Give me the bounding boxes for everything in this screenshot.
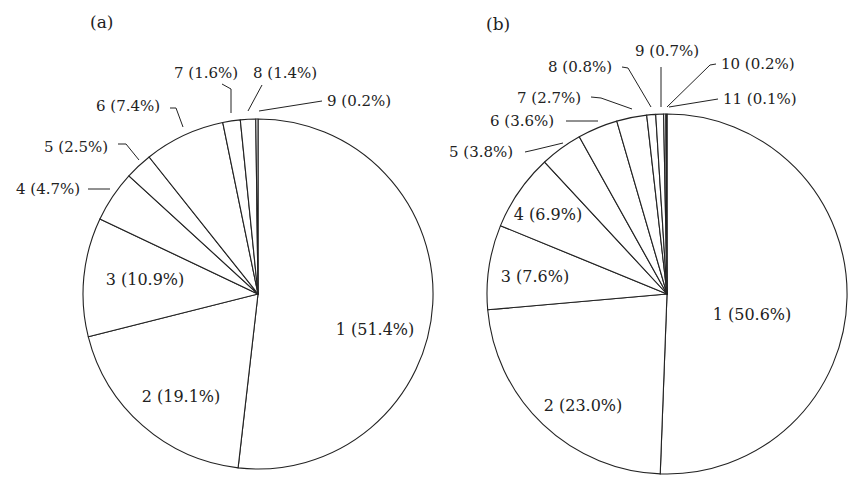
leader-line-a-9 <box>259 101 322 111</box>
slice-label-a-1: 1 (51.4%) <box>336 320 415 339</box>
pie-chart-a: (a) 1 (51.4%) 2 (19.1%) 3 (10.9%) 4 (4.7… <box>16 12 433 469</box>
slice-label-b-11: 11 (0.1%) <box>723 90 797 108</box>
slice-label-a-5: 5 (2.5%) <box>44 138 108 156</box>
slice-label-b-4: 4 (6.9%) <box>514 205 582 224</box>
slice-label-a-6: 6 (7.4%) <box>96 97 160 115</box>
slice-label-b-1: 1 (50.6%) <box>713 305 792 324</box>
leader-line-b-7 <box>591 97 632 109</box>
slice-label-a-7: 7 (1.6%) <box>174 64 238 82</box>
slice-label-b-8: 8 (0.8%) <box>548 58 612 76</box>
slice-label-a-9: 9 (0.2%) <box>327 92 391 110</box>
slice-label-a-2: 2 (19.1%) <box>142 387 221 406</box>
leader-line-a-7 <box>222 84 231 113</box>
pie-slice-b-2 <box>488 294 667 474</box>
leader-line-a-6 <box>170 108 183 127</box>
leader-line-a-5 <box>118 144 139 160</box>
pie-slice-a-1 <box>238 119 433 469</box>
slice-label-b-7: 7 (2.7%) <box>517 89 581 107</box>
panel-label-a: (a) <box>90 12 113 32</box>
slice-label-b-9: 9 (0.7%) <box>635 42 699 60</box>
slice-label-b-5: 5 (3.8%) <box>449 143 513 161</box>
figure: (a) 1 (51.4%) 2 (19.1%) 3 (10.9%) 4 (4.7… <box>0 0 856 492</box>
panel-label-b: (b) <box>486 14 510 34</box>
pie-b-slices <box>487 114 847 474</box>
leader-line-b-11 <box>669 99 718 107</box>
slice-label-b-6: 6 (3.6%) <box>490 112 554 130</box>
pie-charts-figure: (a) 1 (51.4%) 2 (19.1%) 3 (10.9%) 4 (4.7… <box>0 0 856 492</box>
slice-label-b-3: 3 (7.6%) <box>501 267 569 286</box>
slice-label-b-10: 10 (0.2%) <box>721 55 795 73</box>
slice-label-a-4: 4 (4.7%) <box>16 180 80 198</box>
slice-label-b-2: 2 (23.0%) <box>544 396 623 415</box>
leader-line-b-8 <box>622 67 651 107</box>
leader-line-a-8 <box>248 85 262 111</box>
slice-label-a-8: 8 (1.4%) <box>253 64 317 82</box>
pie-chart-b: (b) 1 (50.6%) 2 (23.0%) 3 (7.6%) 4 (6.9%… <box>449 14 847 474</box>
pie-slice-b-1 <box>660 114 847 474</box>
pie-a-slices <box>83 119 433 469</box>
slice-label-a-3: 3 (10.9%) <box>106 270 185 289</box>
